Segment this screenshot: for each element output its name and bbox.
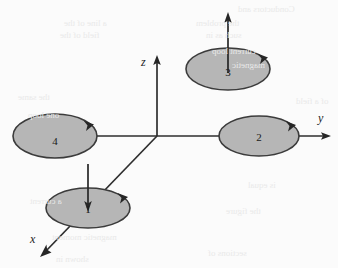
loop-4-group[interactable]: 4 [13, 114, 97, 158]
z-axis-label: z [140, 55, 146, 69]
loop-2-group[interactable]: 2 [219, 116, 299, 156]
figure-container: Conductors anda line of thethe problemfi… [0, 0, 338, 268]
y-axis-label: y [317, 111, 324, 125]
loop-3-label: 3 [225, 66, 231, 78]
loop-1-group[interactable]: 1 [46, 164, 130, 228]
loop-1-label: 1 [85, 203, 91, 215]
loop-3-group[interactable]: 3 [186, 12, 270, 90]
loop-4-label: 4 [52, 135, 58, 147]
loop-2-label: 2 [256, 131, 262, 143]
current-loops-diagram: 4 2 3 1 x y z [0, 0, 338, 268]
x-axis-label: x [29, 232, 36, 246]
